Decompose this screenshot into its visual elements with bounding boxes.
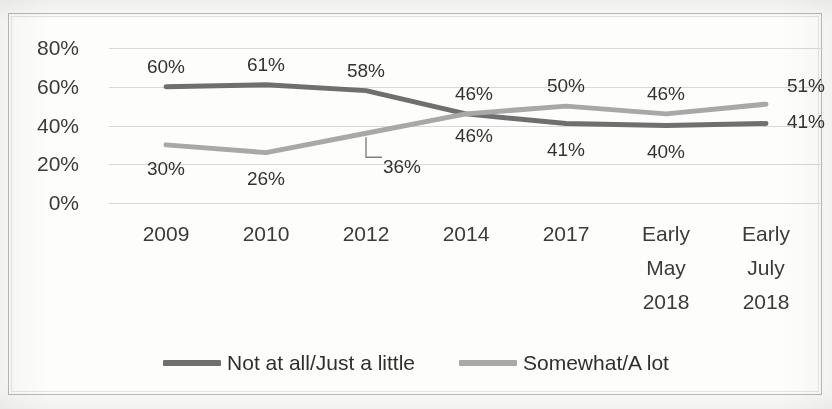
data-label: 41% bbox=[787, 111, 825, 133]
x-axis-tick-label: 2012 bbox=[343, 217, 390, 251]
x-axis-tick-label: 2009 bbox=[143, 217, 190, 251]
plot-area: 0%20%40%60%80% 60%61%58%46%41%40%41%30%2… bbox=[109, 48, 823, 203]
x-axis-tick-label: EarlyJuly2018 bbox=[742, 217, 790, 319]
data-label: 60% bbox=[147, 56, 185, 78]
data-label: 36% bbox=[383, 156, 421, 178]
gridline bbox=[109, 203, 823, 204]
data-label: 30% bbox=[147, 158, 185, 180]
y-axis-tick-label: 60% bbox=[0, 75, 79, 99]
data-label: 41% bbox=[547, 139, 585, 161]
data-label: 51% bbox=[787, 75, 825, 97]
legend-label: Not at all/Just a little bbox=[227, 351, 415, 375]
legend-item[interactable]: Somewhat/A lot bbox=[459, 351, 669, 375]
x-axis-tick-label: 2014 bbox=[443, 217, 490, 251]
data-label: 46% bbox=[455, 83, 493, 105]
chart-legend: Not at all/Just a littleSomewhat/A lot bbox=[9, 351, 823, 375]
data-label: 40% bbox=[647, 141, 685, 163]
data-label: 26% bbox=[247, 168, 285, 190]
legend-line-swatch bbox=[459, 360, 517, 366]
x-axis-tick-label: EarlyMay2018 bbox=[642, 217, 690, 319]
data-label: 46% bbox=[647, 83, 685, 105]
legend-label: Somewhat/A lot bbox=[523, 351, 669, 375]
data-label: 46% bbox=[455, 125, 493, 147]
y-axis-tick-label: 80% bbox=[0, 36, 79, 60]
x-axis-tick-label: 2017 bbox=[543, 217, 590, 251]
x-axis-tick-label: 2010 bbox=[243, 217, 290, 251]
chart-frame: 0%20%40%60%80% 60%61%58%46%41%40%41%30%2… bbox=[8, 13, 822, 395]
data-label: 58% bbox=[347, 60, 385, 82]
legend-line-swatch bbox=[163, 360, 221, 366]
y-axis-tick-label: 20% bbox=[0, 152, 79, 176]
chart-screenshot: 0%20%40%60%80% 60%61%58%46%41%40%41%30%2… bbox=[0, 0, 832, 409]
y-axis-tick-label: 40% bbox=[0, 114, 79, 138]
clipped-title-strip bbox=[0, 0, 832, 12]
y-axis-tick-label: 0% bbox=[0, 191, 79, 215]
data-label: 61% bbox=[247, 54, 285, 76]
callout-leader-line bbox=[366, 137, 382, 157]
legend-item[interactable]: Not at all/Just a little bbox=[163, 351, 415, 375]
data-label: 50% bbox=[547, 75, 585, 97]
